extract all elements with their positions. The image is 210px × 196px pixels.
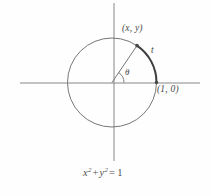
circle-equation: x2+y2=1 bbox=[83, 168, 124, 179]
point-marker-xy bbox=[135, 44, 139, 48]
equation-plus: + bbox=[91, 167, 99, 178]
equation-rhs: 1 bbox=[116, 167, 123, 178]
equation-equals: = bbox=[108, 167, 116, 178]
arc-length-label-t: t bbox=[151, 46, 154, 56]
unit-circle-figure: (x, y) t θ (1, 0) x2+y2=1 bbox=[0, 0, 210, 196]
point-label-one-zero: (1, 0) bbox=[157, 85, 179, 95]
point-label-xy: (x, y) bbox=[122, 24, 143, 34]
angle-arc-theta bbox=[119, 73, 124, 83]
angle-label-theta: θ bbox=[125, 68, 130, 77]
